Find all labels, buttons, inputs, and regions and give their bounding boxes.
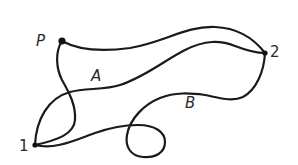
label-point-1: 1 bbox=[19, 139, 29, 154]
path-diagram bbox=[0, 0, 298, 165]
point-p-dot bbox=[58, 37, 65, 44]
label-point-2: 2 bbox=[270, 45, 280, 60]
label-path-b: B bbox=[185, 96, 195, 111]
label-point-p: P bbox=[36, 34, 45, 49]
path-b bbox=[35, 53, 265, 157]
curve-p-to-2 bbox=[62, 27, 265, 53]
label-path-a: A bbox=[91, 69, 101, 84]
point-1-dot bbox=[32, 142, 37, 147]
point-2-dot bbox=[262, 50, 267, 55]
